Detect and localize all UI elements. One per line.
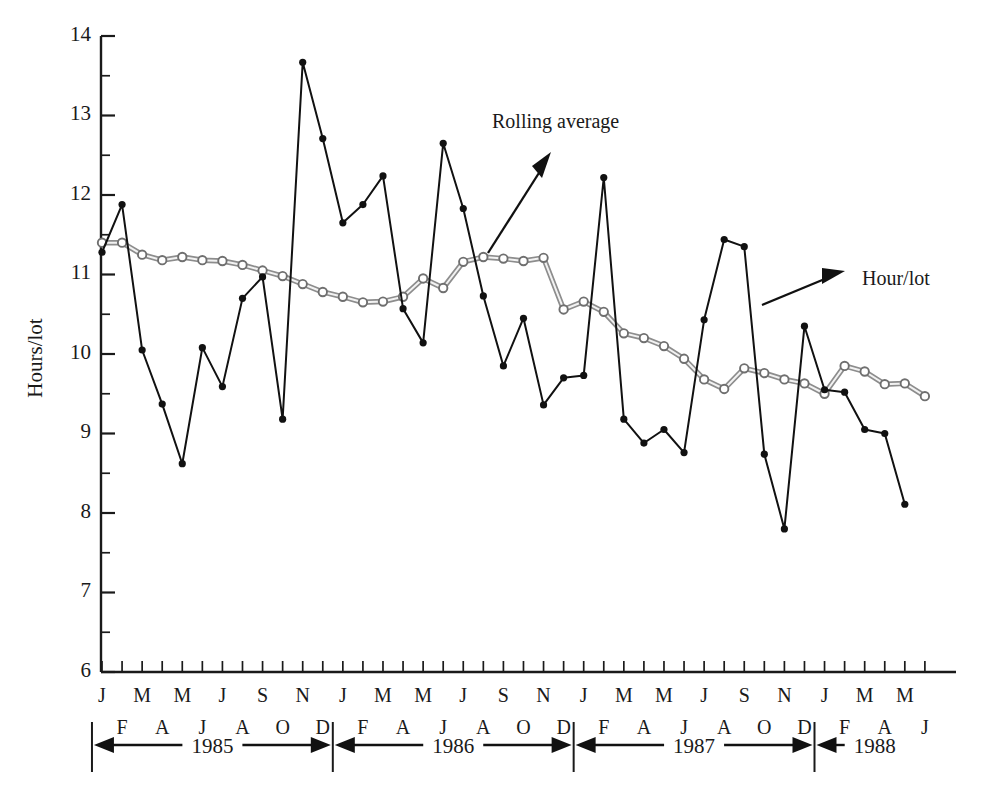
hour-lot-point <box>721 236 728 243</box>
x-tick-label-month: F <box>117 716 128 738</box>
rolling-average-markers <box>98 239 929 401</box>
hour-lot-point <box>841 389 848 396</box>
rolling-average-point <box>519 257 527 265</box>
annotation-hour-lot-arrow-head <box>822 268 845 284</box>
x-axis-month-labels-odd: JMMJSNJMMJSNJMMJSNJMM <box>98 684 914 706</box>
x-tick-label-month: A <box>155 716 170 738</box>
y-tick-label: 12 <box>70 181 91 205</box>
hour-lot-point <box>259 273 266 280</box>
x-tick-label-month: J <box>700 684 708 706</box>
hour-lot-point <box>901 501 908 508</box>
rolling-average-point <box>339 293 347 301</box>
year-arrow-right-head <box>793 737 813 753</box>
x-tick-label-month: M <box>133 684 151 706</box>
y-axis-title: Hours/lot <box>23 318 47 398</box>
y-tick-label: 11 <box>71 260 91 284</box>
y-tick-label: 14 <box>70 22 92 46</box>
x-tick-label-month: J <box>339 684 347 706</box>
hour-lot-point <box>199 344 206 351</box>
y-tick-label: 6 <box>81 658 92 682</box>
year-arrow-left-head <box>576 737 596 753</box>
annotation-hour-lot-arrow-line <box>762 276 832 305</box>
line-chart-svg: 14131211109876 JMMJSNJMMJSNJMMJSNJMM FAJ… <box>0 0 995 800</box>
x-tick-label-month: A <box>637 716 652 738</box>
rolling-average-point <box>178 253 186 261</box>
hour-lot-point <box>139 346 146 353</box>
x-tick-label-month: N <box>536 684 550 706</box>
annotation-rolling-average-label: Rolling average <box>492 110 619 133</box>
rolling-average-point <box>499 254 507 262</box>
hour-lot-point <box>580 372 587 379</box>
rolling-average-point <box>198 256 206 264</box>
y-axis-ticks <box>101 36 115 672</box>
x-tick-label-month: J <box>821 684 829 706</box>
x-tick-label-month: D <box>556 716 570 738</box>
y-tick-label: 10 <box>70 340 91 364</box>
rolling-average-point <box>740 364 748 372</box>
year-label: 1987 <box>673 734 715 758</box>
x-tick-label-month: J <box>98 684 106 706</box>
rolling-average-point <box>921 392 929 400</box>
rolling-average-point <box>479 253 487 261</box>
x-tick-label-month: M <box>173 684 191 706</box>
rolling-average-point <box>600 308 608 316</box>
x-tick-label-month: N <box>295 684 309 706</box>
hour-lot-point <box>861 426 868 433</box>
hour-lot-point <box>640 439 647 446</box>
x-tick-label-month: D <box>316 716 330 738</box>
rolling-average-point <box>640 334 648 342</box>
rolling-average-point <box>559 305 567 313</box>
rolling-average-point <box>419 274 427 282</box>
hour-lot-point <box>761 451 768 458</box>
x-tick-label-month: A <box>717 716 732 738</box>
x-tick-label-month: J <box>459 684 467 706</box>
hour-lot-point <box>379 172 386 179</box>
y-tick-label: 8 <box>81 499 92 523</box>
x-tick-label-month: M <box>414 684 432 706</box>
hour-lot-point <box>420 339 427 346</box>
y-tick-label: 9 <box>81 419 92 443</box>
year-arrow-left-head <box>94 737 114 753</box>
hour-lot-point <box>660 426 667 433</box>
hour-lot-point <box>680 449 687 456</box>
annotation-rolling-average-arrow-head <box>532 152 551 178</box>
hour-lot-point <box>600 174 607 181</box>
rolling-average-point <box>118 239 126 247</box>
rolling-average-point <box>881 380 889 388</box>
hour-lot-point <box>440 140 447 147</box>
x-tick-label-month: A <box>396 716 411 738</box>
rolling-average-point <box>680 355 688 363</box>
annotation-rolling-average: Rolling average <box>488 110 619 253</box>
hour-lot-point <box>98 249 105 256</box>
hour-lot-point <box>319 135 326 142</box>
hour-lot-point <box>560 374 567 381</box>
rolling-average-point <box>860 367 868 375</box>
x-tick-label-month: O <box>516 716 530 738</box>
hour-lot-point <box>520 315 527 322</box>
hour-lot-point <box>881 430 888 437</box>
hour-lot-point <box>480 292 487 299</box>
rolling-average-point <box>579 297 587 305</box>
year-label: 1988 <box>854 734 896 758</box>
hour-lot-point <box>620 416 627 423</box>
x-tick-label-month: M <box>856 684 874 706</box>
rolling-average-point <box>760 369 768 377</box>
x-tick-label-month: M <box>655 684 673 706</box>
rolling-average-point <box>660 342 668 350</box>
annotation-hour-lot-label: Hour/lot <box>862 267 930 289</box>
year-label: 1985 <box>191 734 233 758</box>
rolling-average-point <box>620 329 628 337</box>
x-tick-label-month: J <box>219 684 227 706</box>
rolling-average-point <box>218 257 226 265</box>
hour-lot-point <box>359 201 366 208</box>
hour-lot-point <box>701 316 708 323</box>
year-arrow-right-head <box>311 737 331 753</box>
x-tick-label-month: F <box>598 716 609 738</box>
x-tick-label-month: F <box>839 716 850 738</box>
x-axis-ticks <box>102 661 925 672</box>
rolling-average-point <box>459 258 467 266</box>
x-tick-label-month: O <box>275 716 289 738</box>
hour-lot-point <box>179 460 186 467</box>
rolling-average-point <box>278 272 286 280</box>
x-tick-label-month: F <box>357 716 368 738</box>
